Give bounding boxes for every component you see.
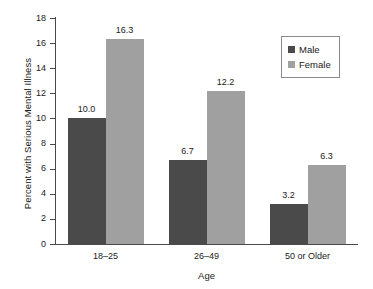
y-tick-mark <box>50 68 55 69</box>
y-tick-mark <box>50 219 55 220</box>
y-tick-mark <box>50 43 55 44</box>
y-tick-label: 2 <box>26 214 46 223</box>
x-category-label: 26–49 <box>156 251 257 261</box>
y-tick-mark <box>50 93 55 94</box>
y-axis-line <box>55 17 56 245</box>
y-tick-label: 0 <box>26 240 46 249</box>
y-tick-mark <box>50 244 55 245</box>
y-tick-label: 8 <box>26 139 46 148</box>
y-tick-label: 18 <box>26 14 46 23</box>
legend-item-male[interactable]: Male <box>288 42 331 57</box>
bar-female-1 <box>207 91 245 244</box>
y-tick-label: 16 <box>26 39 46 48</box>
bar-value-label: 10.0 <box>62 105 112 114</box>
bar-value-label: 3.2 <box>264 191 314 200</box>
bar-male-1 <box>169 160 207 244</box>
y-tick-label: 12 <box>26 89 46 98</box>
legend-swatch-icon <box>288 61 295 68</box>
y-tick-mark <box>50 194 55 195</box>
legend-label: Female <box>299 60 331 70</box>
bar-value-label: 6.7 <box>163 147 213 156</box>
bar-male-0 <box>68 118 106 244</box>
bar-male-2 <box>270 204 308 244</box>
x-axis-title: Age <box>55 270 358 281</box>
y-tick-label: 4 <box>26 189 46 198</box>
y-tick-mark <box>50 118 55 119</box>
y-tick-mark <box>50 144 55 145</box>
y-tick-label: 14 <box>26 64 46 73</box>
y-tick-label: 6 <box>26 164 46 173</box>
bar-value-label: 12.2 <box>201 78 251 87</box>
y-axis-title: Percent with Serious Mental Illness <box>22 24 33 244</box>
legend: MaleFemale <box>281 36 340 78</box>
y-tick-mark <box>50 18 55 19</box>
legend-swatch-icon <box>288 46 295 53</box>
bar-value-label: 16.3 <box>100 26 150 35</box>
legend-item-female[interactable]: Female <box>288 57 331 72</box>
bar-value-label: 6.3 <box>302 152 352 161</box>
y-tick-mark <box>50 169 55 170</box>
x-category-label: 50 or Older <box>257 251 358 261</box>
bar-female-2 <box>308 165 346 244</box>
bar-female-0 <box>106 39 144 244</box>
legend-label: Male <box>299 45 320 55</box>
bar-chart: Percent with Serious Mental Illness 1816… <box>0 0 373 289</box>
x-category-label: 18–25 <box>55 251 156 261</box>
y-tick-label: 10 <box>26 114 46 123</box>
x-axis-line <box>55 244 358 245</box>
